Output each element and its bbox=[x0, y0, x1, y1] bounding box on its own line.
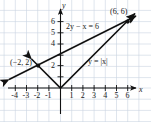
x-tick-label-neg4: -4 bbox=[11, 92, 18, 100]
equation-label-absolute-value: y = |x| bbox=[88, 58, 108, 66]
point-label-right: (6, 6) bbox=[110, 8, 127, 16]
y-axis bbox=[58, 9, 64, 114]
x-tick-label-3: 3 bbox=[92, 92, 96, 100]
x-axis-name: x bbox=[139, 86, 143, 94]
equation-label-line: 2y − x = 6 bbox=[66, 23, 99, 31]
intersection-dot-right bbox=[126, 20, 130, 24]
x-tick-label-2: 2 bbox=[81, 92, 85, 100]
x-tick-label-neg2: -2 bbox=[34, 92, 41, 100]
y-tick-label-6: 6 bbox=[51, 18, 55, 26]
x-tick-label-1: 1 bbox=[70, 92, 74, 100]
y-tick-label-5: 5 bbox=[51, 29, 55, 37]
math-graph-figure: 6 5 4 2 -4 -3 -2 -1 1 2 3 4 5 6 x y 2y −… bbox=[0, 0, 151, 122]
x-tick-label-5: 5 bbox=[114, 92, 118, 100]
y-tick-label-2: 2 bbox=[51, 62, 55, 70]
x-tick-label-4: 4 bbox=[103, 92, 107, 100]
x-tick-label-neg3: -3 bbox=[23, 92, 30, 100]
x-tick-label-6: 6 bbox=[126, 92, 130, 100]
y-axis-name: y bbox=[62, 2, 66, 10]
intersection-dot-left bbox=[36, 64, 40, 68]
y-tick-label-4: 4 bbox=[51, 40, 55, 48]
point-label-left: (−2, 2) bbox=[10, 59, 32, 67]
x-tick-label-neg1: -1 bbox=[45, 92, 52, 100]
